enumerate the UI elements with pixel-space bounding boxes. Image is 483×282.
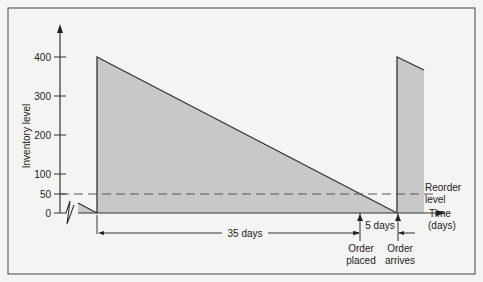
- ytick-label: 400: [34, 52, 51, 63]
- inventory-diagram: 400 300 200 100 50 0 Inventory level Reo…: [0, 0, 483, 282]
- inventory-area-next: [397, 57, 424, 213]
- ytick-label: 0: [45, 208, 51, 219]
- ytick-label: 100: [34, 169, 51, 180]
- x-axis-label-line2: (days): [428, 220, 456, 231]
- order-arrives-label-line2: arrives: [385, 255, 415, 266]
- ytick-label: 200: [34, 130, 51, 141]
- ytick-label: 300: [34, 91, 51, 102]
- reorder-label-line1: Reorder: [425, 182, 462, 193]
- order-arrives-label-line1: Order: [387, 243, 413, 254]
- interval-5-label: 5 days: [365, 220, 394, 231]
- interval-35-label: 35 days: [227, 228, 262, 239]
- ytick-label: 50: [40, 189, 52, 200]
- reorder-label-line2: level: [425, 194, 446, 205]
- y-axis-label: Inventory level: [21, 104, 32, 168]
- x-axis-label-line1: Time: [429, 208, 451, 219]
- order-placed-label-line1: Order: [348, 243, 374, 254]
- order-placed-label-line2: placed: [346, 255, 375, 266]
